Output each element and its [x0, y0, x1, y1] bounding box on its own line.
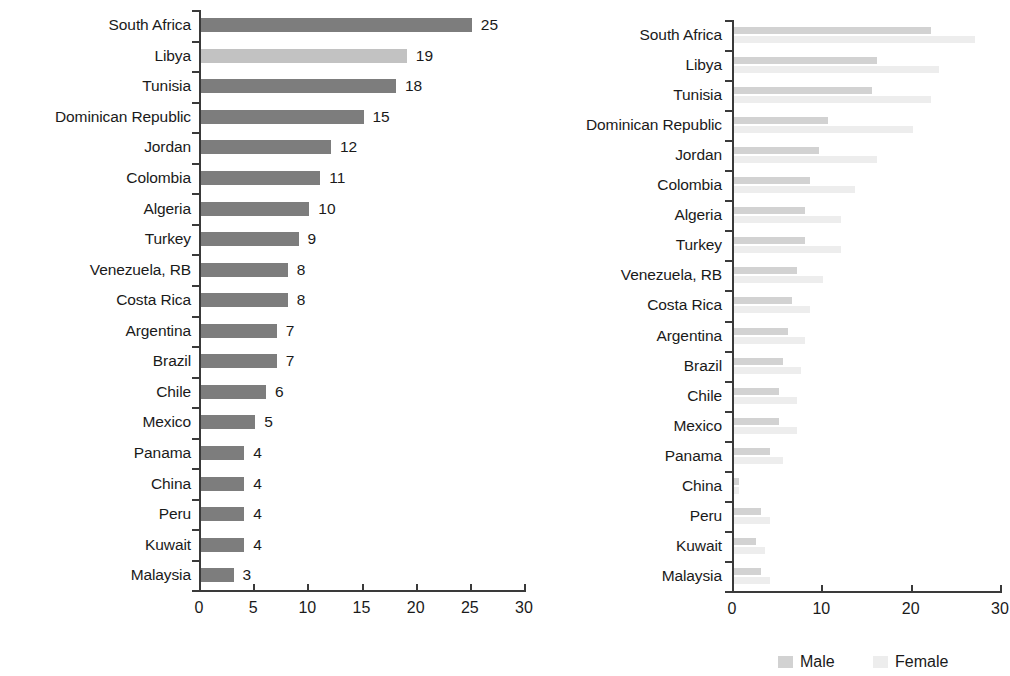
- category-label: Libya: [154, 48, 191, 63]
- x-tick-label: 15: [342, 600, 382, 616]
- y-tick: [192, 224, 199, 226]
- y-tick: [192, 377, 199, 379]
- category-label: Mexico: [674, 418, 723, 433]
- x-tick-label: 10: [801, 601, 841, 617]
- legend-swatch-male: [778, 656, 793, 668]
- bar: [201, 49, 407, 63]
- right-x-axis: [732, 591, 1002, 593]
- y-tick: [725, 471, 732, 473]
- x-tick-label: 5: [233, 600, 273, 616]
- bar-value-label: 12: [340, 139, 357, 154]
- bar-value-label: 10: [318, 201, 335, 216]
- x-tick-label: 20: [396, 600, 436, 616]
- y-tick: [725, 200, 732, 202]
- category-label: Panama: [665, 448, 722, 463]
- y-tick: [725, 591, 732, 593]
- y-tick: [192, 499, 199, 501]
- bar-female: [734, 216, 841, 223]
- category-label: Argentina: [657, 328, 722, 343]
- bar-male: [734, 27, 931, 34]
- category-label: Libya: [685, 57, 722, 72]
- y-tick: [192, 285, 199, 287]
- bar-value-label: 3: [243, 567, 252, 582]
- bar: [201, 202, 309, 216]
- y-tick: [192, 41, 199, 43]
- category-label: South Africa: [109, 17, 191, 32]
- bar: [201, 79, 396, 93]
- x-tick-label: 0: [179, 600, 219, 616]
- category-label: Costa Rica: [647, 297, 722, 312]
- category-label: Panama: [134, 445, 191, 460]
- x-tick: [253, 584, 255, 591]
- bar-male: [734, 448, 770, 455]
- bar-value-label: 4: [253, 445, 262, 460]
- bar-value-label: 15: [373, 109, 390, 124]
- bar-female: [734, 246, 841, 253]
- y-tick: [725, 381, 732, 383]
- left-y-axis: [199, 10, 201, 590]
- bar-male: [734, 508, 761, 515]
- bar: [201, 507, 244, 521]
- bar: [201, 324, 277, 338]
- bar-female: [734, 427, 797, 434]
- y-tick: [725, 50, 732, 52]
- figure-two-bar-charts: South AfricaLibyaTunisiaDominican Republ…: [0, 0, 1010, 676]
- category-label: Malaysia: [131, 567, 191, 582]
- bar-female: [734, 457, 783, 464]
- x-tick: [821, 585, 823, 592]
- y-tick: [725, 561, 732, 563]
- category-label: Tunisia: [142, 78, 191, 93]
- category-label: Peru: [690, 508, 722, 523]
- y-tick: [192, 193, 199, 195]
- y-tick: [725, 230, 732, 232]
- category-label: Brazil: [153, 353, 191, 368]
- category-label: Colombia: [126, 170, 191, 185]
- y-tick: [725, 351, 732, 353]
- bar-female: [734, 96, 931, 103]
- bar-value-label: 6: [275, 384, 284, 399]
- y-tick: [725, 140, 732, 142]
- bar: [201, 293, 288, 307]
- y-tick: [725, 170, 732, 172]
- category-label: Brazil: [684, 358, 722, 373]
- y-tick: [192, 102, 199, 104]
- bar-value-label: 5: [264, 414, 273, 429]
- bar-male: [734, 358, 783, 365]
- category-label: Chile: [687, 388, 722, 403]
- bar-female: [734, 577, 770, 584]
- category-label: Kuwait: [676, 538, 722, 553]
- bar: [201, 354, 277, 368]
- category-label: Dominican Republic: [55, 109, 191, 124]
- y-tick: [725, 531, 732, 533]
- right-y-axis: [732, 20, 734, 591]
- bar-value-label: 11: [329, 170, 345, 185]
- bar-value-label: 8: [297, 262, 306, 277]
- bar-value-label: 4: [253, 537, 262, 552]
- y-tick: [725, 501, 732, 503]
- category-label: Malaysia: [662, 568, 722, 583]
- bar-value-label: 7: [286, 323, 295, 338]
- legend-label-female: Female: [895, 654, 948, 670]
- y-tick: [725, 260, 732, 262]
- category-label: South Africa: [640, 27, 722, 42]
- bar-female: [734, 276, 823, 283]
- bar-male: [734, 237, 805, 244]
- category-label: Tunisia: [673, 87, 722, 102]
- y-tick: [725, 80, 732, 82]
- y-tick: [725, 290, 732, 292]
- bar: [201, 171, 320, 185]
- bar-value-label: 4: [253, 506, 262, 521]
- category-label: Turkey: [145, 231, 191, 246]
- y-tick: [725, 411, 732, 413]
- category-label: Algeria: [143, 201, 191, 216]
- legend-label-male: Male: [800, 654, 835, 670]
- y-tick: [192, 10, 199, 12]
- y-tick: [192, 254, 199, 256]
- bar-male: [734, 297, 792, 304]
- category-label: Dominican Republic: [586, 117, 722, 132]
- y-tick: [192, 560, 199, 562]
- bar-female: [734, 306, 810, 313]
- bar-male: [734, 207, 805, 214]
- x-tick: [524, 584, 526, 591]
- x-tick-label: 10: [287, 600, 327, 616]
